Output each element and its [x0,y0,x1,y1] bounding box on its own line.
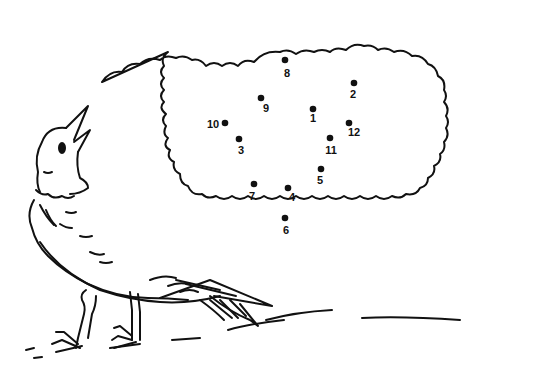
dot-number-label: 3 [238,144,244,156]
dot-marker [282,215,289,222]
dot-number-label: 1 [310,112,316,124]
numbered-dots: 123456789101112 [207,57,360,236]
dot-to-dot-illustration: 123456789101112 [0,0,542,366]
dot-marker [351,80,358,87]
dot-5: 5 [317,166,324,186]
dot-number-label: 9 [263,102,269,114]
dot-marker [282,57,289,64]
dot-2: 2 [350,80,357,100]
dot-9: 9 [258,95,269,114]
dot-10: 10 [207,118,228,130]
dot-number-label: 8 [284,67,290,79]
dot-3: 3 [236,136,244,156]
dot-1: 1 [310,106,317,124]
dot-12: 12 [346,120,360,138]
dot-8: 8 [282,57,290,79]
dot-number-label: 7 [249,190,255,202]
dot-number-label: 2 [350,88,356,100]
dot-number-label: 10 [207,118,219,130]
dot-11: 11 [325,135,337,156]
dot-marker [318,166,325,173]
bird-drawing [29,106,272,352]
dot-number-label: 5 [317,174,323,186]
dot-number-label: 4 [289,191,296,203]
thought-cloud [102,45,448,199]
dot-6: 6 [282,215,289,236]
dot-marker [258,95,265,102]
dot-marker [222,120,229,127]
dot-marker [251,181,258,188]
dot-number-label: 12 [348,126,360,138]
dot-number-label: 6 [283,224,289,236]
dot-4: 4 [285,185,296,203]
dot-marker [327,135,334,142]
dot-number-label: 11 [325,144,337,156]
dot-marker [236,136,243,143]
